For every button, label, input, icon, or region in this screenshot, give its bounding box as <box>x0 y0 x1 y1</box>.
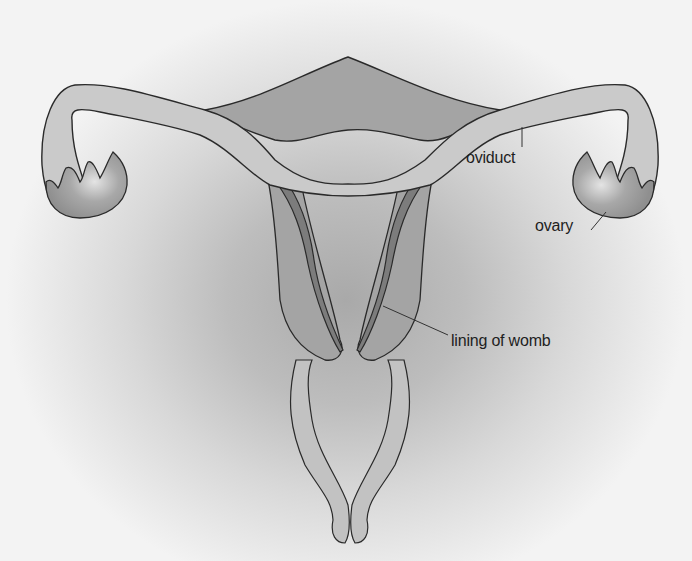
reproductive-system-illustration <box>0 0 692 561</box>
vagina-wall-right <box>351 360 410 543</box>
label-lining-of-womb: lining of womb <box>451 333 550 349</box>
uterus-fundus <box>205 57 500 141</box>
label-ovary: ovary <box>535 218 573 234</box>
label-oviduct: oviduct <box>466 150 515 166</box>
vagina-wall-left <box>290 360 349 543</box>
diagram-canvas: oviduct ovary lining of womb <box>0 0 692 561</box>
